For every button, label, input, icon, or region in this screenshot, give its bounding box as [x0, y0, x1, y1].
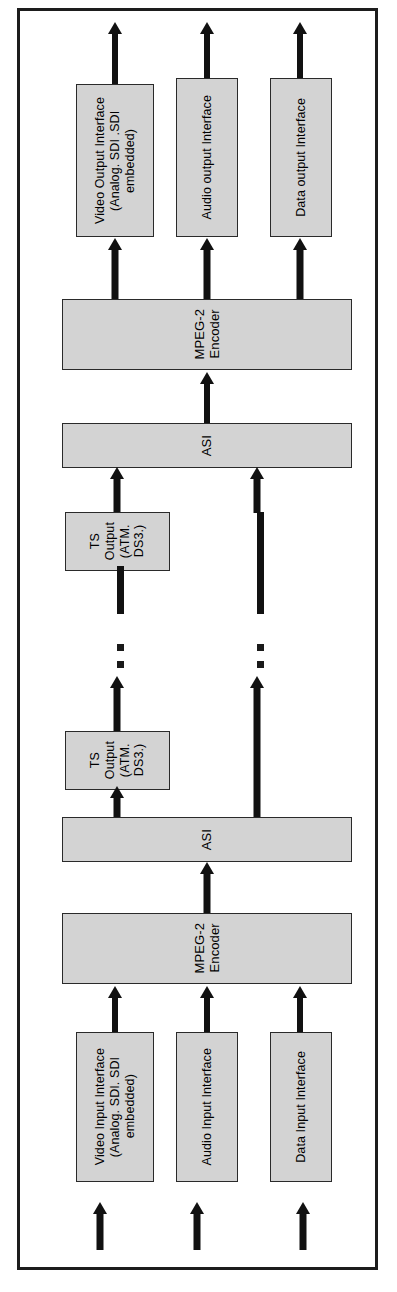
- block-data-output-interface-label: Data output Interface: [294, 98, 309, 217]
- block-video-input-interface[interactable]: Video Input Interface (Analog. SDI. SDI …: [76, 1032, 154, 1182]
- block-ts-output-upper[interactable]: TS Output (ATM. DS3.): [65, 512, 170, 571]
- block-data-input-interface-label: Data Input Interface: [294, 1051, 309, 1163]
- block-audio-input-interface-label: Audio Input Interface: [200, 1048, 215, 1165]
- block-data-output-interface[interactable]: Data output Interface: [270, 78, 332, 237]
- block-asi-upper-bar-label: ASI: [199, 435, 214, 456]
- data-link-upper-segment: [257, 512, 264, 614]
- block-asi-lower-bar[interactable]: ASI: [62, 817, 352, 862]
- block-audio-output-interface[interactable]: Audio output Interface: [176, 78, 238, 237]
- block-ts-output-lower-label: TS Output (ATM. DS3.): [88, 741, 147, 779]
- block-mpeg2-encoder-bar-label: MPEG-2 Encoder: [192, 923, 223, 973]
- video-link-dash-1: [117, 644, 124, 651]
- block-asi-upper-bar[interactable]: ASI: [62, 423, 352, 468]
- diagram-canvas: Video Output Interface (Analog. SDI .SDI…: [0, 0, 397, 1292]
- block-ts-output-lower[interactable]: TS Output (ATM. DS3.): [65, 731, 170, 790]
- block-asi-lower-bar-label: ASI: [199, 829, 214, 850]
- data-link-dash-1: [257, 644, 264, 651]
- block-video-output-interface-label: Video Output Interface (Analog. SDI .SDI…: [93, 97, 137, 224]
- block-data-input-interface[interactable]: Data Input Interface: [270, 1032, 332, 1182]
- data-link-dash-2: [257, 661, 264, 668]
- block-video-output-interface[interactable]: Video Output Interface (Analog. SDI .SDI…: [76, 84, 154, 237]
- block-video-input-interface-label: Video Input Interface (Analog. SDI. SDI …: [93, 1048, 137, 1165]
- block-audio-input-interface[interactable]: Audio Input Interface: [176, 1032, 238, 1182]
- block-mpeg2-encoder-bar[interactable]: MPEG-2 Encoder: [62, 913, 352, 984]
- video-link-upper-segment: [117, 566, 124, 614]
- block-mpeg2-decoder-bar-label: MPEG-2 Encoder: [192, 309, 223, 359]
- block-ts-output-upper-label: TS Output (ATM. DS3.): [88, 522, 147, 560]
- block-audio-output-interface-label: Audio output Interface: [200, 95, 215, 220]
- video-link-dash-2: [117, 661, 124, 668]
- block-mpeg2-decoder-bar[interactable]: MPEG-2 Encoder: [62, 299, 352, 370]
